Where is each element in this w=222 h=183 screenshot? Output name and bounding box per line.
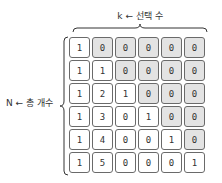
table-cell: 0 — [92, 37, 113, 58]
table-cell: 0 — [184, 37, 205, 58]
table-cell: 1 — [69, 106, 90, 127]
table-cell: 0 — [138, 83, 159, 104]
table-cell: 1 — [92, 60, 113, 81]
table-cell: 3 — [92, 106, 113, 127]
table-cell: 4 — [92, 129, 113, 150]
left-brace-icon — [60, 36, 68, 176]
table-cell: 1 — [184, 152, 205, 173]
table-cell: 1 — [138, 106, 159, 127]
table-cell: 0 — [161, 60, 182, 81]
top-brace-icon — [72, 24, 208, 32]
table-cell: 1 — [69, 83, 90, 104]
table-cell: 5 — [92, 152, 113, 173]
table-cell: 0 — [138, 129, 159, 150]
table-cell: 0 — [115, 129, 136, 150]
table-cell: 0 — [161, 37, 182, 58]
table-cell: 1 — [69, 37, 90, 58]
table-cell: 0 — [115, 152, 136, 173]
table-cell: 0 — [161, 83, 182, 104]
table-cell: 0 — [115, 60, 136, 81]
table-cell: 0 — [138, 37, 159, 58]
table-cell: 0 — [161, 106, 182, 127]
table-cell: 0 — [184, 106, 205, 127]
k-axis-label: k ← 선택 수 — [110, 9, 170, 22]
table-cell: 1 — [115, 83, 136, 104]
table-cell: 0 — [161, 152, 182, 173]
table-cell: 0 — [138, 60, 159, 81]
table-cell: 0 — [138, 152, 159, 173]
table-cell: 0 — [115, 37, 136, 58]
table-cell: 0 — [184, 129, 205, 150]
dp-table-grid: 100000110000121000130100140010150001 — [68, 36, 206, 174]
table-cell: 0 — [184, 83, 205, 104]
table-cell: 1 — [69, 152, 90, 173]
table-cell: 0 — [184, 60, 205, 81]
table-cell: 1 — [161, 129, 182, 150]
table-cell: 1 — [69, 129, 90, 150]
n-axis-label: N ← 총 개수 — [6, 96, 53, 109]
table-cell: 2 — [92, 83, 113, 104]
table-cell: 1 — [69, 60, 90, 81]
table-cell: 0 — [115, 106, 136, 127]
